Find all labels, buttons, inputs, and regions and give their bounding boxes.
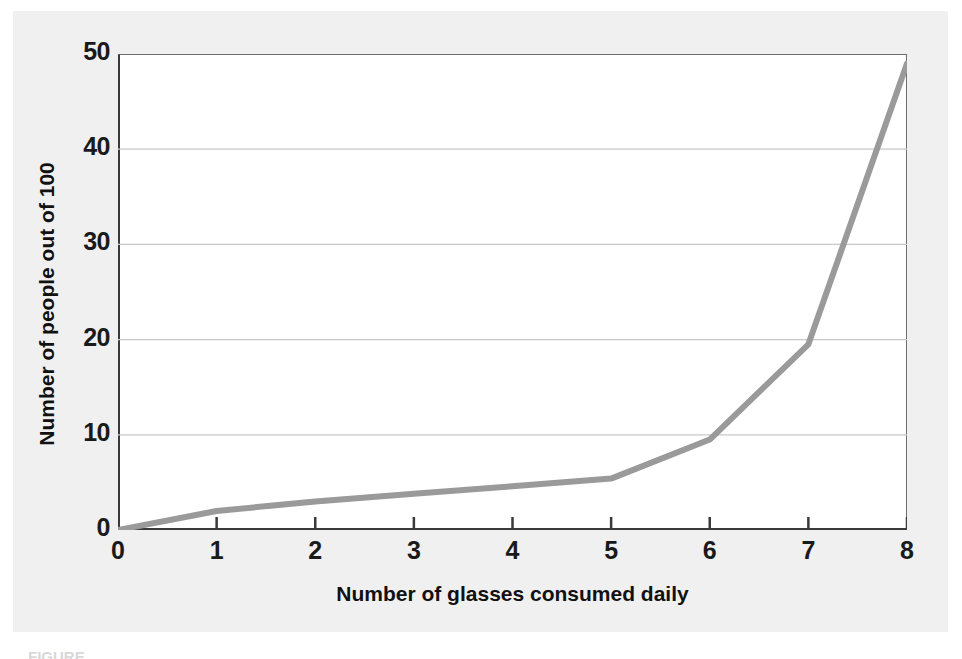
- x-tick-label: 8: [887, 536, 927, 565]
- x-tick-label: 7: [788, 536, 828, 565]
- x-axis-title: Number of glasses consumed daily: [118, 582, 907, 606]
- x-tick-label: 1: [197, 536, 237, 565]
- figure-caption: FIGURE: [28, 648, 928, 659]
- x-tick-label: 4: [493, 536, 533, 565]
- figure-root: 01020304050 012345678 Number of people o…: [0, 0, 962, 659]
- y-axis-title: Number of people out of 100: [35, 104, 59, 504]
- x-axis-tick-labels: 012345678: [0, 0, 962, 659]
- x-tick-label: 2: [295, 536, 335, 565]
- x-tick-label: 5: [591, 536, 631, 565]
- x-tick-label: 3: [394, 536, 434, 565]
- x-tick-label: 6: [690, 536, 730, 565]
- x-tick-label: 0: [98, 536, 138, 565]
